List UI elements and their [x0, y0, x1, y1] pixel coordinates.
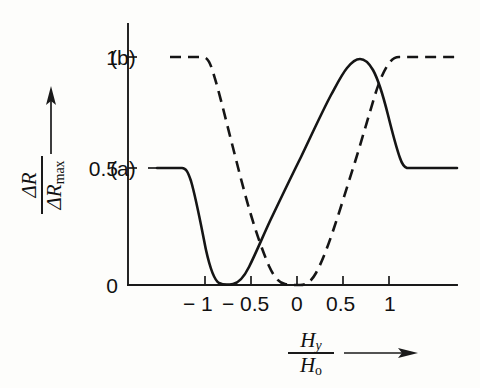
y-axis-label: ΔR ΔRmax — [12, 127, 72, 243]
curve-a-tag: (a) — [110, 158, 136, 179]
x-axis-fraction: Hy Ho — [288, 329, 334, 377]
figure-container: ΔR ΔRmax 1 0.5 0 − 1 − 0.5 0 0.5 1 Hy Ho… — [0, 0, 480, 388]
x-tick-label-neg1: − 1 — [183, 293, 213, 314]
x-axis-arrow — [344, 345, 418, 361]
y-tick-label-0: 0 — [78, 275, 118, 296]
x-axis-label: Hy Ho — [288, 329, 418, 377]
curve-a-path — [157, 59, 457, 285]
x-tick-label-0: 0 — [291, 293, 303, 314]
x-axis-denominator: Ho — [296, 354, 326, 377]
x-tick-label-1: 1 — [384, 293, 396, 314]
x-tick-label-0-5: 0.5 — [326, 293, 355, 314]
x-axis-numerator: Hy — [296, 329, 325, 352]
curve-b-path — [170, 57, 457, 285]
x-tick-label-neg0-5: − 0.5 — [222, 293, 269, 314]
y-axis-fraction: ΔR ΔRmax — [18, 156, 66, 213]
curve-b-tag: (b) — [110, 47, 136, 68]
y-axis-numerator: ΔR — [18, 168, 41, 201]
